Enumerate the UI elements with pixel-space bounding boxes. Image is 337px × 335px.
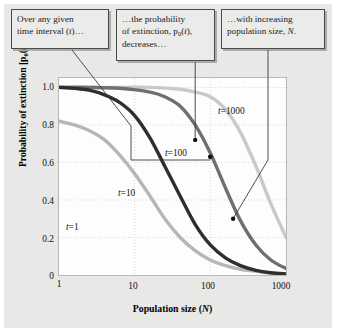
callout-probability-line3: decreases…	[122, 39, 210, 51]
series-label-t100-value: 100	[173, 148, 187, 158]
series-label-t100-var: t	[165, 148, 168, 158]
callout-probability-sub: 0	[178, 30, 181, 37]
callout-probability: …the probability of extinction, p0(t), d…	[116, 9, 215, 61]
page-edge-right	[332, 0, 337, 335]
ytick-1: 1.0	[28, 82, 54, 92]
x-axis-label-var: N	[202, 303, 209, 314]
series-label-t1: t=1	[66, 222, 79, 232]
callout-probability-post: ),	[187, 26, 192, 36]
callout-population-size-pre: population size,	[227, 26, 287, 36]
x-axis-label-post: )	[209, 303, 212, 314]
xtick-1: 1	[44, 279, 74, 289]
callout-time-interval-line1: Over any given	[17, 14, 104, 26]
ytick-04: 0.4	[28, 196, 54, 206]
callout-probability-pre: of extinction, p	[122, 26, 178, 36]
callout-time-interval-line2: time interval (t)…	[17, 26, 104, 38]
plot-area	[58, 77, 287, 276]
ytick-08: 0.8	[28, 120, 54, 130]
series-label-t1000: t=1000	[218, 106, 245, 116]
series-label-t1-var: t	[66, 222, 69, 232]
xtick-1000: 1000	[266, 281, 296, 291]
callout-population-size: …with increasing population size, N.	[221, 9, 325, 49]
callout-population-size-line1: …with increasing	[227, 14, 320, 26]
chart-canvas	[59, 78, 286, 275]
ytick-02: 0.2	[28, 234, 54, 244]
xtick-10: 10	[118, 281, 148, 291]
callout-time-interval-pre: time interval (	[17, 26, 69, 36]
callout-probability-line2: of extinction, p0(t),	[122, 26, 210, 40]
callout-time-interval: Over any given time interval (t)…	[11, 9, 109, 49]
page-edge-top	[0, 0, 337, 4]
x-axis-label: Population size (N)	[58, 303, 287, 314]
ytick-06: 0.6	[28, 158, 54, 168]
callout-time-interval-post: )…	[72, 26, 84, 36]
page-edge-left	[0, 0, 4, 335]
callout-population-size-line2: population size, N.	[227, 26, 320, 38]
page-edge-bottom	[0, 328, 337, 335]
series-label-t1-value: 1	[74, 222, 79, 232]
y-axis-label-pre: Probability of extinction [p	[17, 57, 28, 167]
series-label-t1000-value: 1000	[226, 106, 245, 116]
xtick-100: 100	[193, 281, 223, 291]
callout-population-size-post: .	[294, 26, 296, 36]
series-label-t100: t=100	[165, 148, 187, 158]
figure-container: 1.0 0.8 0.6 0.4 0.2 0 1 10 100 1000 Prob…	[0, 0, 337, 335]
callout-probability-line1: …the probability	[122, 14, 210, 26]
series-label-t10: t=10	[118, 188, 135, 198]
y-axis-label-sub: 0	[22, 53, 29, 56]
series-label-t10-var: t	[118, 188, 121, 198]
series-label-t1000-var: t	[218, 106, 221, 116]
series-label-t10-value: 10	[126, 188, 135, 198]
x-axis-label-pre: Population size (	[133, 303, 202, 314]
